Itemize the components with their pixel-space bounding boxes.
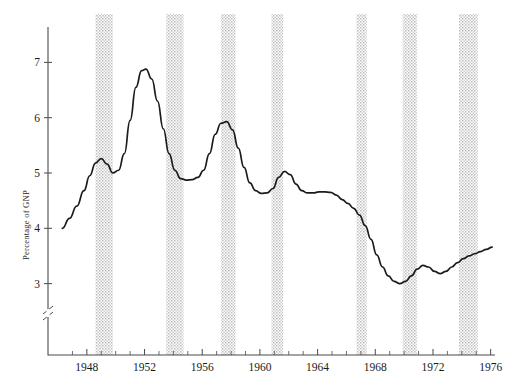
y-tick-label-3: 3 (34, 278, 40, 290)
recession-bands (95, 14, 477, 355)
x-tick-label-1948: 1948 (75, 361, 98, 373)
x-tick-label-1956: 1956 (191, 361, 214, 373)
y-tick-label-4: 4 (34, 222, 40, 234)
recession-band-1 (95, 14, 112, 355)
line-chart: 34567 19481952195619601964196819721976 P… (0, 0, 507, 391)
recession-band-6 (403, 14, 417, 355)
x-tick-label-1952: 1952 (133, 361, 156, 373)
x-tick-label-1972: 1972 (421, 361, 444, 373)
x-tick-label-1960: 1960 (248, 361, 271, 373)
y-axis-label: Percentage of GNP (21, 190, 31, 260)
recession-band-3 (221, 14, 235, 355)
x-tick-label-1976: 1976 (479, 361, 502, 373)
x-axis: 19481952195619601964196819721976 (72, 349, 502, 373)
x-tick-label-1964: 1964 (306, 361, 329, 373)
y-tick-label-6: 6 (34, 112, 40, 124)
recession-band-2 (166, 14, 183, 355)
recession-band-5 (357, 14, 367, 355)
y-tick-label-5: 5 (34, 167, 40, 179)
y-tick-label-7: 7 (34, 56, 40, 68)
chart-container: 34567 19481952195619601964196819721976 P… (0, 0, 507, 391)
recession-band-7 (459, 14, 478, 355)
x-tick-label-1968: 1968 (364, 361, 387, 373)
recession-band-4 (271, 14, 283, 355)
y-axis-break-gap (46, 309, 49, 317)
